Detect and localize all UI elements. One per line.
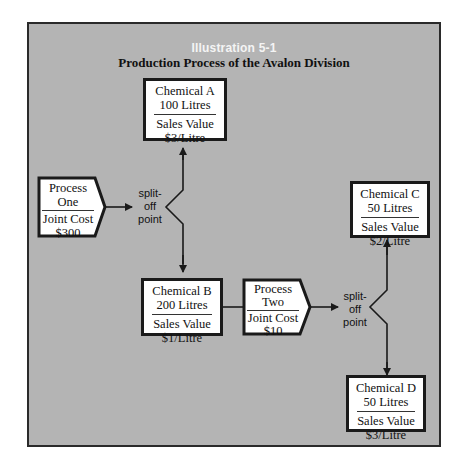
chemical-d-box: Chemical D 50 Litres Sales Value $3/Litr…	[346, 375, 426, 432]
divider	[42, 210, 94, 211]
split-label-line: point	[338, 316, 372, 329]
split-off-point-1-line	[166, 151, 183, 264]
split-off-point-1-label: split- off point	[133, 187, 167, 226]
process-two-label-2: Two	[245, 296, 301, 309]
split-off-point-2-label: split- off point	[338, 290, 372, 329]
chemical-c-sales-value: $2/Litre	[353, 234, 427, 248]
process-one-cost-label: Joint Cost	[40, 212, 96, 226]
chemical-d-sales-label: Sales Value	[349, 414, 423, 428]
split-label-line: off	[133, 200, 167, 213]
chemical-a-box: Chemical A 100 Litres Sales Value $3/Lit…	[143, 78, 227, 141]
split-off-point-2-line	[370, 246, 387, 372]
chemical-d-volume: 50 Litres	[349, 395, 423, 409]
chemical-a-name: Chemical A	[146, 84, 224, 98]
process-one-cost-value: $300	[40, 226, 96, 240]
chemical-c-sales-label: Sales Value	[353, 220, 427, 234]
chemical-a-sales-value: $3/Litre	[146, 131, 224, 145]
chemical-a-sales-label: Sales Value	[146, 117, 224, 131]
chemical-b-sales-value: $1/Litre	[144, 331, 220, 345]
chemical-c-name: Chemical C	[353, 187, 427, 201]
chemical-b-sales-label: Sales Value	[144, 317, 220, 331]
divider	[361, 217, 419, 218]
split-label-line: off	[338, 303, 372, 316]
process-one-node: Process One Joint Cost $300	[40, 181, 96, 240]
divider	[152, 314, 212, 315]
process-one-label-1: Process	[40, 181, 96, 195]
split-label-line: point	[133, 213, 167, 226]
chemical-c-box: Chemical C 50 Litres Sales Value $2/Litr…	[350, 181, 430, 238]
chemical-d-name: Chemical D	[349, 381, 423, 395]
chemical-b-name: Chemical B	[144, 284, 220, 298]
process-two-node: Process Two Joint Cost $10	[245, 283, 301, 338]
divider	[357, 411, 415, 412]
chemical-b-volume: 200 Litres	[144, 298, 220, 312]
chemical-c-volume: 50 Litres	[353, 201, 427, 215]
split-label-line: split-	[338, 290, 372, 303]
divider	[154, 114, 216, 115]
chemical-a-volume: 100 Litres	[146, 98, 224, 112]
process-one-label-2: One	[40, 195, 96, 209]
process-two-cost-value: $10	[245, 325, 301, 338]
chemical-d-sales-value: $3/Litre	[349, 428, 423, 442]
split-label-line: split-	[133, 187, 167, 200]
chemical-b-box: Chemical B 200 Litres Sales Value $1/Lit…	[141, 278, 223, 336]
